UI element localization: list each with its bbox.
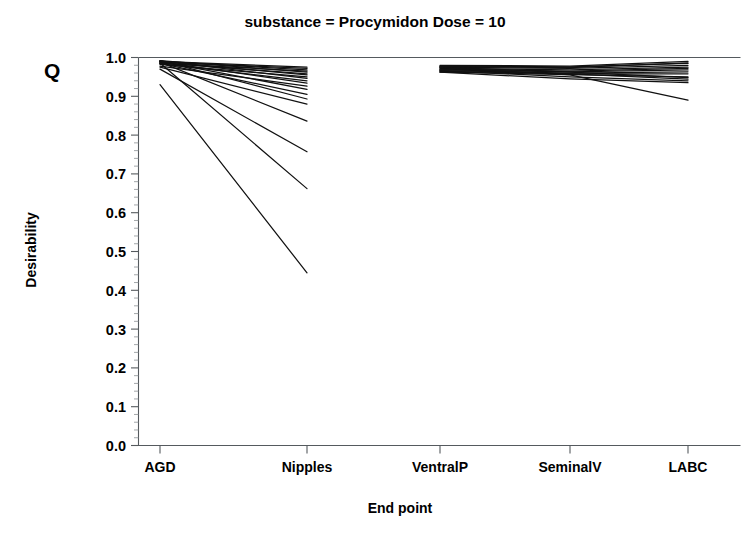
series-line (440, 61, 688, 66)
x-tick-label: Nipples (282, 459, 333, 475)
y-tick-label: 0.8 (106, 128, 126, 144)
x-tick-label: VentralP (412, 459, 468, 475)
chart-title: substance = Procymidon Dose = 10 (244, 13, 505, 30)
y-tick-label: 0.3 (106, 322, 126, 338)
y-tick-label: 0.7 (106, 166, 126, 182)
y-tick-label: 0.6 (106, 205, 126, 221)
y-tick-label: 0.1 (106, 399, 126, 415)
x-axis-ticks: AGDNipplesVentralPSeminalVLABC (144, 446, 707, 475)
y-tick-label: 0.5 (106, 244, 126, 260)
x-tick-label: LABC (669, 459, 708, 475)
chart-figure: substance = Procymidon Dose = 10 Q Desir… (0, 0, 751, 549)
x-axis-title: End point (368, 500, 433, 516)
chart-canvas: substance = Procymidon Dose = 10 Q Desir… (0, 0, 751, 549)
y-tick-label: 0.4 (106, 283, 126, 299)
series-line (160, 63, 307, 189)
y-axis-title: Desirability (23, 212, 39, 288)
y-tick-label: 1.0 (106, 50, 126, 66)
x-tick-label: AGD (144, 459, 175, 475)
q-annotation-label: Q (44, 59, 60, 82)
y-tick-label: 0.9 (106, 89, 126, 105)
axis-frame (139, 58, 741, 446)
series-lines (160, 61, 688, 273)
y-axis-ticks: 0.00.10.20.30.40.50.60.70.80.91.0 (106, 50, 139, 454)
x-tick-label: SeminalV (538, 459, 602, 475)
y-tick-label: 0.0 (106, 438, 126, 454)
y-tick-label: 0.2 (106, 360, 126, 376)
